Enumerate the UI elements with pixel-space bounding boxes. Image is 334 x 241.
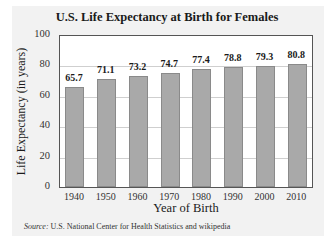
y-tick-label: 0 xyxy=(20,180,50,191)
bar-1940 xyxy=(65,87,84,187)
chart-title: U.S. Life Expectancy at Birth for Female… xyxy=(0,10,334,25)
x-axis-label: Year of Birth xyxy=(59,201,313,216)
y-axis-label: Life Expectancy (in years) xyxy=(14,47,29,177)
bar-2010 xyxy=(288,64,307,187)
source-note: Source: U.S. National Center for Health … xyxy=(24,222,230,231)
bar-1950 xyxy=(97,79,116,187)
bar-1990 xyxy=(224,67,243,187)
source-text: U.S. National Center for Health Statisti… xyxy=(49,222,231,231)
bar-1980 xyxy=(192,69,211,187)
bar-value-label: 80.8 xyxy=(276,49,316,60)
bar-1970 xyxy=(161,73,180,187)
bar-1960 xyxy=(129,76,148,187)
y-tick-label: 100 xyxy=(20,28,50,39)
source-label: Source: xyxy=(24,222,49,231)
bar-2000 xyxy=(256,66,275,187)
